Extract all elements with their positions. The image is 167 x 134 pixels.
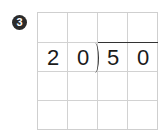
answer-cell[interactable] [128,13,158,42]
answer-cell[interactable] [98,13,128,42]
answer-cell[interactable] [68,13,98,42]
dividend-digit-ones: 0 [128,43,158,72]
grid-row-line [38,100,157,101]
problem-number-badge: 3 [12,15,27,30]
dividend-digit-tens: 5 [98,43,128,72]
answer-cell[interactable] [38,13,68,42]
divisor-digit-ones: 0 [68,43,98,72]
long-division-grid: 2 0 5 0 [37,12,158,130]
divisor-digit-tens: 2 [38,43,68,72]
